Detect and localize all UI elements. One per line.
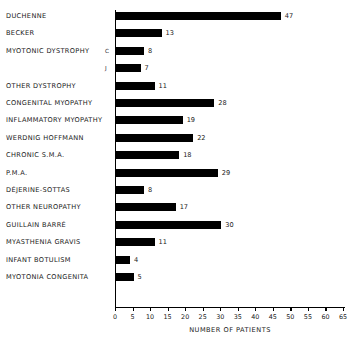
bar xyxy=(116,256,130,264)
x-axis-tick xyxy=(185,307,186,311)
category-label: Myasthenia Gravis xyxy=(0,238,100,246)
bar xyxy=(116,221,221,229)
category-label: Other Neuropathy xyxy=(0,203,100,211)
bar xyxy=(116,82,155,90)
bar-value-label: 28 xyxy=(218,99,226,107)
bar xyxy=(116,64,141,72)
x-axis-tick-label: 30 xyxy=(216,313,224,321)
bar xyxy=(116,169,218,177)
category-label: Other Dystrophy xyxy=(0,82,100,90)
bar-value-label: 11 xyxy=(159,82,167,90)
bar-value-label: 4 xyxy=(134,256,138,264)
x-axis-tick-label: 15 xyxy=(164,313,172,321)
bar xyxy=(116,12,281,20)
x-axis-tick xyxy=(203,307,204,311)
x-axis-tick-label: 50 xyxy=(286,313,294,321)
category-label: Inflammatory Myopathy xyxy=(0,116,100,124)
bar xyxy=(116,186,144,194)
x-axis-tick-label: 45 xyxy=(269,313,277,321)
bar xyxy=(116,238,155,246)
x-axis: Number of Patients 051015202530354045505… xyxy=(115,307,347,341)
category-label: Becker xyxy=(0,29,100,37)
x-axis-tick-label: 65 xyxy=(339,313,347,321)
bar-value-label: 19 xyxy=(187,116,195,124)
x-axis-tick xyxy=(308,307,309,311)
bar xyxy=(116,203,176,211)
bar-value-label: 7 xyxy=(145,64,149,72)
x-axis-tick xyxy=(133,307,134,311)
x-axis-tick xyxy=(325,307,326,311)
x-axis-tick-label: 5 xyxy=(130,313,134,321)
x-axis-tick-label: 40 xyxy=(251,313,259,321)
x-axis-tick xyxy=(343,307,344,311)
category-label: Myotonia Congenita xyxy=(0,273,100,281)
category-label: Duchenne xyxy=(0,12,100,20)
plot-area: 47138C7J112819221829817301145 xyxy=(115,10,343,293)
x-axis-tick-label: 20 xyxy=(181,313,189,321)
bar-value-label: 47 xyxy=(285,12,293,20)
bar-value-label: 17 xyxy=(180,203,188,211)
bar-value-label: 11 xyxy=(159,238,167,246)
x-axis-tick xyxy=(168,307,169,311)
category-axis-labels: DuchenneBeckerMyotonic DystrophyOther Dy… xyxy=(0,10,100,293)
bar xyxy=(116,134,193,142)
x-axis-tick xyxy=(115,307,116,311)
x-axis-tick-label: 0 xyxy=(113,313,117,321)
bar-chart: DuchenneBeckerMyotonic DystrophyOther Dy… xyxy=(0,0,354,342)
x-axis-tick xyxy=(273,307,274,311)
bar xyxy=(116,151,179,159)
category-label: Chronic S.M.A. xyxy=(0,151,100,159)
category-label: Congenital Myopathy xyxy=(0,99,100,107)
bar-subgroup-marker: C xyxy=(105,48,109,54)
x-axis-tick xyxy=(150,307,151,311)
bar-value-label: 5 xyxy=(138,273,142,281)
bar xyxy=(116,29,162,37)
x-axis-tick-label: 25 xyxy=(199,313,207,321)
bar-value-label: 30 xyxy=(225,221,233,229)
bar-value-label: 29 xyxy=(222,169,230,177)
category-label: P.M.A. xyxy=(0,169,100,177)
bar xyxy=(116,47,144,55)
category-label: Déjerine-Sottas xyxy=(0,186,100,194)
bar-value-label: 8 xyxy=(148,186,152,194)
x-axis-tick-label: 35 xyxy=(234,313,242,321)
x-axis-tick-label: 10 xyxy=(146,313,154,321)
x-axis-tick-label: 55 xyxy=(304,313,312,321)
bar-value-label: 13 xyxy=(166,29,174,37)
bar-value-label: 8 xyxy=(148,47,152,55)
category-label: Guillain Barré xyxy=(0,221,100,229)
category-label: Werdnig Hoffmann xyxy=(0,134,100,142)
x-axis-title: Number of Patients xyxy=(115,326,345,334)
x-axis-tick xyxy=(290,307,291,311)
category-label: Myotonic Dystrophy xyxy=(0,47,100,55)
x-axis-tick xyxy=(255,307,256,311)
bar-value-label: 22 xyxy=(197,134,205,142)
x-axis-tick xyxy=(238,307,239,311)
x-axis-tick xyxy=(220,307,221,311)
bar xyxy=(116,273,134,281)
category-label: Infant Botulism xyxy=(0,256,100,264)
x-axis-tick-label: 60 xyxy=(321,313,329,321)
bar xyxy=(116,116,183,124)
bar-subgroup-marker: J xyxy=(105,65,107,71)
bar-value-label: 18 xyxy=(183,151,191,159)
bar xyxy=(116,99,214,107)
